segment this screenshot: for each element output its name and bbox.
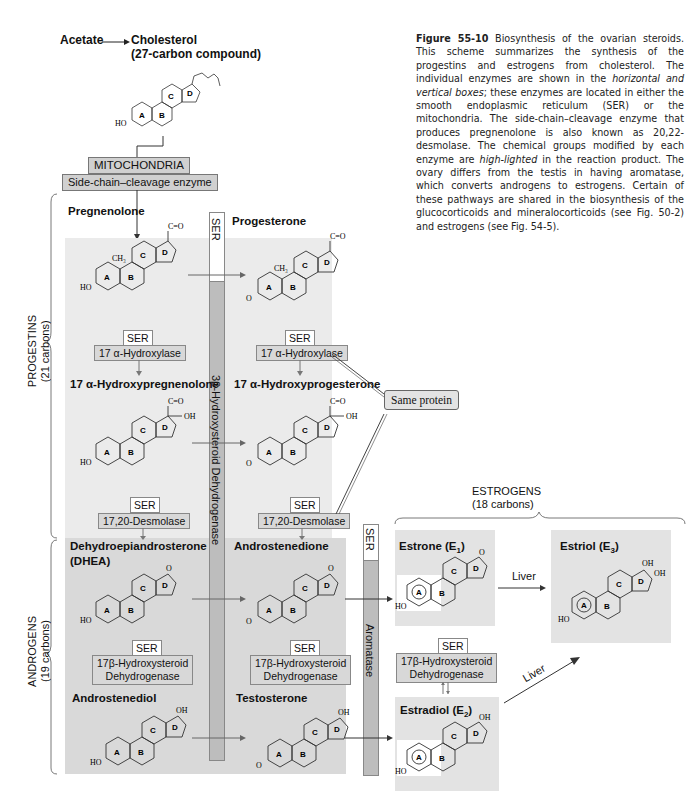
cholesterol-structure: A B C D HO — [110, 68, 230, 138]
ser-tag: SER — [438, 638, 468, 654]
svg-text:A: A — [266, 283, 272, 292]
svg-text:D: D — [162, 248, 168, 257]
figure-caption: Figure 55-10 Biosynthesis of the ovarian… — [416, 32, 684, 233]
arrow-right-icon — [345, 594, 395, 604]
svg-text:A: A — [114, 748, 120, 757]
hydroxylase-enzyme-left: 17 α-Hydroxylase — [94, 345, 186, 361]
arrow-right-icon — [345, 733, 395, 743]
svg-text:OH: OH — [479, 713, 491, 722]
ser-label-3bhsd: SER — [210, 218, 222, 241]
svg-text:A: A — [581, 601, 587, 610]
progesterone-structure: AB CD OC=OCH₃ — [240, 235, 360, 315]
svg-text:HO: HO — [115, 119, 127, 128]
progesterone-label: Progesterone — [232, 215, 306, 227]
svg-text:O: O — [246, 459, 252, 468]
svg-text:HO: HO — [558, 615, 570, 624]
ser-tag: SER — [285, 330, 315, 346]
svg-text:C: C — [150, 726, 156, 735]
svg-text:B: B — [604, 602, 610, 611]
svg-text:OH: OH — [642, 559, 654, 568]
pregnenolone-structure: AB CD HOC=OCH₃ — [78, 225, 198, 305]
dhea-abbrev: (DHEA) — [70, 555, 110, 567]
svg-text:C=O: C=O — [168, 397, 184, 406]
callout-pointer-lines — [330, 350, 390, 520]
svg-text:D: D — [473, 564, 479, 573]
svg-text:C: C — [312, 728, 318, 737]
estrone-label: Estrone (E1) — [399, 540, 465, 555]
svg-text:CH₃: CH₃ — [112, 254, 126, 263]
ser-tag: SER — [132, 640, 162, 656]
ser-tag: SER — [290, 497, 320, 513]
svg-text:OH: OH — [176, 706, 188, 715]
svg-text:B: B — [128, 606, 134, 615]
svg-text:A: A — [104, 448, 110, 457]
svg-text:D: D — [324, 581, 330, 590]
estradiol-label: Estradiol (E2) — [400, 704, 472, 719]
progestins-label: PROGESTINS(21 carbons) — [26, 315, 52, 387]
hydroxypregnenolone-structure: AB CD HOC=OOH — [78, 400, 208, 480]
svg-text:A: A — [276, 750, 282, 759]
svg-text:OH: OH — [184, 412, 196, 421]
svg-text:D: D — [638, 577, 644, 586]
dhea-label: Dehydroepiandrosterone — [70, 540, 207, 552]
svg-text:C: C — [451, 732, 457, 741]
ser-tag: SER — [123, 330, 153, 346]
svg-text:A: A — [266, 448, 272, 457]
svg-text:D: D — [334, 725, 340, 734]
svg-text:HO: HO — [395, 767, 407, 776]
side-chain-cleavage-enzyme: Side-chain–cleavage enzyme — [62, 174, 218, 191]
svg-text:OH: OH — [654, 569, 666, 578]
ser-tag: SER — [290, 640, 320, 656]
estradiol-structure: AB CD HOOH — [395, 720, 505, 790]
estrogens-brace — [393, 510, 688, 526]
mitochondria-label: MITOCHONDRIA — [88, 157, 190, 174]
svg-text:O: O — [246, 617, 252, 626]
svg-text:C: C — [451, 567, 457, 576]
pregnenolone-label: Pregnenolone — [68, 205, 145, 217]
svg-text:C: C — [140, 584, 146, 593]
testosterone-label: Testosterone — [236, 692, 307, 704]
estrogens-label: ESTROGENS(18 carbons) — [472, 485, 541, 511]
androstenedione-structure: AB CD OO — [240, 568, 360, 638]
arrow-down-icon — [296, 360, 304, 376]
bidirectional-arrow-icon — [440, 682, 452, 694]
acetate-label: Acetate — [60, 33, 103, 47]
arrow-down-icon — [298, 528, 306, 540]
androstenedione-label: Androstenedione — [234, 540, 329, 552]
svg-text:A: A — [139, 111, 145, 120]
group-brace — [47, 192, 61, 776]
dhea-structure: AB CD HOO — [78, 568, 198, 638]
androstenediol-structure: AB CD HOOH — [88, 710, 208, 780]
svg-text:D: D — [473, 729, 479, 738]
cholesterol-label: Cholesterol — [131, 33, 197, 47]
svg-text:O: O — [256, 761, 262, 770]
aromatase-enzyme-label: Aromatase — [364, 624, 376, 677]
svg-text:OH: OH — [338, 708, 350, 717]
arrow-icon — [100, 37, 130, 47]
svg-text:B: B — [128, 448, 134, 457]
arrow-right-icon — [498, 583, 548, 593]
arrow-right-icon — [192, 594, 248, 604]
hsd17-enzyme-mid: 17β-HydroxysteroidDehydrogenase — [250, 655, 351, 685]
estriol-structure: AB CD HOOHOH — [556, 568, 676, 638]
svg-text:A: A — [416, 588, 422, 597]
svg-text:C: C — [168, 92, 174, 101]
arrow-down-icon — [139, 528, 147, 540]
svg-text:B: B — [439, 754, 445, 763]
svg-text:C=O: C=O — [330, 232, 346, 241]
desmolase-enzyme-left: 17,20-Desmolase — [98, 513, 190, 529]
testosterone-structure: AB CD OOH — [250, 712, 370, 782]
svg-text:O: O — [479, 548, 485, 557]
svg-text:B: B — [300, 750, 306, 759]
svg-text:O: O — [246, 294, 252, 303]
svg-text:CH₃: CH₃ — [274, 264, 288, 273]
svg-text:O: O — [328, 564, 334, 573]
estrone-structure: AB CD HOO — [395, 555, 505, 625]
connector-line — [135, 134, 175, 158]
same-protein-callout: Same protein — [384, 390, 459, 410]
svg-text:C: C — [302, 584, 308, 593]
liver-label-top: Liver — [512, 570, 536, 582]
hsd17-enzyme-right: 17β-HydroxysteroidDehydrogenase — [396, 653, 497, 683]
svg-text:B: B — [159, 111, 165, 120]
svg-text:D: D — [162, 581, 168, 590]
